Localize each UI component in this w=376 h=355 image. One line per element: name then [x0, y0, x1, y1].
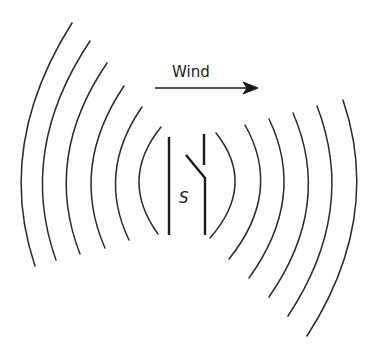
wavefronts-right — [210, 100, 357, 336]
switch-blade — [186, 155, 205, 178]
wavefront-left-4 — [91, 86, 124, 248]
wavefront-right-1 — [210, 133, 235, 238]
wind-wavefront-diagram: Wind S — [0, 0, 376, 355]
wavefront-left-6 — [139, 127, 161, 234]
switch-label: S — [179, 189, 189, 207]
wavefront-right-4 — [269, 113, 308, 297]
wavefront-left-2 — [42, 41, 90, 260]
wind-indicator: Wind — [155, 63, 258, 94]
wavefronts-left — [21, 23, 161, 266]
wavefront-left-3 — [66, 63, 107, 254]
wavefront-left-5 — [115, 107, 142, 240]
wavefront-right-6 — [307, 100, 357, 336]
wind-label: Wind — [172, 63, 210, 81]
source-switch: S — [169, 134, 205, 235]
wavefront-right-5 — [288, 106, 332, 316]
